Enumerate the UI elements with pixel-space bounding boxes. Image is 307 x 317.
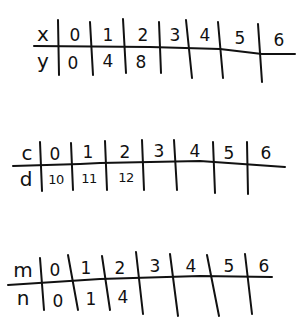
- input-cell: 6: [261, 145, 272, 162]
- input-cell: 4: [190, 143, 201, 160]
- output-label: n: [17, 288, 30, 308]
- output-cell: 0: [53, 293, 64, 310]
- input-cell: 3: [150, 258, 161, 275]
- output-cell: 11: [81, 172, 97, 185]
- input-cell: 6: [274, 32, 285, 49]
- input-cell: 6: [259, 258, 270, 275]
- input-cell: 4: [200, 27, 211, 44]
- output-cell: 4: [118, 289, 129, 306]
- output-label: y: [37, 51, 49, 71]
- input-cell: 3: [154, 143, 165, 160]
- input-cell: 5: [224, 258, 235, 275]
- output-label: d: [20, 169, 33, 189]
- output-cell: 0: [68, 55, 79, 72]
- input-cell: 0: [50, 146, 61, 163]
- input-label: c: [22, 143, 33, 163]
- input-cell: 5: [235, 30, 246, 47]
- output-cell: 8: [136, 54, 147, 71]
- output-cell: 1: [86, 291, 97, 308]
- input-label: m: [13, 260, 32, 280]
- output-cell: 4: [103, 53, 114, 70]
- input-cell: 1: [103, 27, 114, 44]
- input-cell: 0: [70, 27, 81, 44]
- input-cell: 2: [115, 260, 126, 277]
- output-cell: 10: [48, 173, 64, 186]
- worksheet: x 0 1 2 3 4 5 6 y 0 4 8 c 0 1 2 3 4 5 6 …: [0, 0, 307, 317]
- input-cell: 2: [138, 27, 149, 44]
- input-cell: 0: [50, 262, 61, 279]
- input-cell: 3: [170, 27, 181, 44]
- output-cell: 12: [118, 171, 134, 184]
- input-cell: 1: [81, 260, 92, 277]
- input-cell: 1: [83, 144, 94, 161]
- input-cell: 5: [224, 145, 235, 162]
- input-cell: 2: [120, 144, 131, 161]
- input-cell: 4: [186, 258, 197, 275]
- input-label: x: [37, 24, 49, 44]
